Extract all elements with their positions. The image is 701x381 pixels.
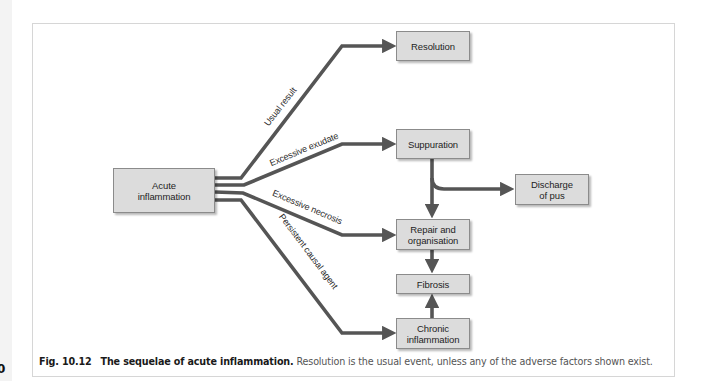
- node-label: Acute inflammation: [138, 180, 191, 202]
- edge-usual-result: [215, 46, 390, 178]
- node-label: Fibrosis: [417, 279, 449, 290]
- node-suppuration: Suppuration: [396, 129, 470, 159]
- figure-title: The sequelae of acute inflammation.: [101, 356, 294, 367]
- node-chronic-inflammation: Chronic inflammation: [396, 318, 470, 349]
- node-label: Discharge of pus: [531, 179, 573, 201]
- node-label: Repair and organisation: [408, 224, 459, 246]
- node-acute-inflammation: Acute inflammation: [113, 168, 215, 213]
- node-discharge-of-pus: Discharge of pus: [515, 174, 589, 205]
- node-label: Resolution: [411, 41, 455, 52]
- flow-connectors: [0, 0, 701, 381]
- node-label: Suppuration: [408, 139, 458, 150]
- node-fibrosis: Fibrosis: [396, 274, 470, 294]
- edge-suppuration-discharge: [432, 178, 508, 189]
- node-repair-and-organisation: Repair and organisation: [396, 219, 470, 250]
- node-label: Chronic inflammation: [407, 323, 460, 345]
- figure-caption-text: Resolution is the usual event, unless an…: [294, 356, 653, 367]
- figure-number: Fig. 10.12: [39, 356, 92, 367]
- figure-caption: Fig. 10.12The sequelae of acute inflamma…: [39, 356, 653, 367]
- node-resolution: Resolution: [396, 31, 470, 61]
